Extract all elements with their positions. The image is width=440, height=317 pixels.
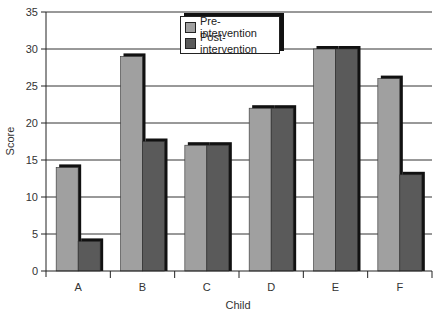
x-tick-label: B [139, 281, 146, 293]
y-tick-label: 10 [26, 191, 38, 203]
y-axis-title: Score [4, 127, 16, 156]
bar [314, 49, 336, 271]
x-tick-label: A [74, 281, 82, 293]
bar [185, 145, 207, 271]
legend-label-post: Post-intervention [200, 31, 275, 55]
bar [143, 142, 165, 272]
x-tick-label: E [332, 281, 339, 293]
y-tick-label: 35 [26, 6, 38, 18]
bar [400, 175, 422, 271]
x-axis-ticks: ABCDEF [74, 271, 432, 293]
legend-swatch-pre [185, 22, 196, 33]
y-tick-label: 0 [32, 265, 38, 277]
bar [78, 241, 100, 271]
bars [56, 46, 425, 271]
bar [378, 79, 400, 271]
bar [336, 49, 358, 271]
x-tick-label: D [267, 281, 275, 293]
bar [56, 167, 78, 271]
x-tick-label: F [396, 281, 403, 293]
bar [249, 108, 271, 271]
bar [121, 56, 143, 271]
legend-item-post: Post-intervention [185, 35, 275, 51]
legend: Pre-intervention Post-intervention [180, 16, 280, 54]
legend-swatch-post [185, 38, 196, 49]
y-tick-label: 5 [32, 228, 38, 240]
x-axis-title: Child [225, 299, 250, 311]
bar [271, 108, 293, 271]
y-tick-label: 30 [26, 43, 38, 55]
bar [207, 145, 229, 271]
y-axis-ticks: 05101520253035 [26, 6, 46, 277]
y-tick-label: 25 [26, 80, 38, 92]
x-tick-label: C [203, 281, 211, 293]
y-tick-label: 20 [26, 117, 38, 129]
y-tick-label: 15 [26, 154, 38, 166]
